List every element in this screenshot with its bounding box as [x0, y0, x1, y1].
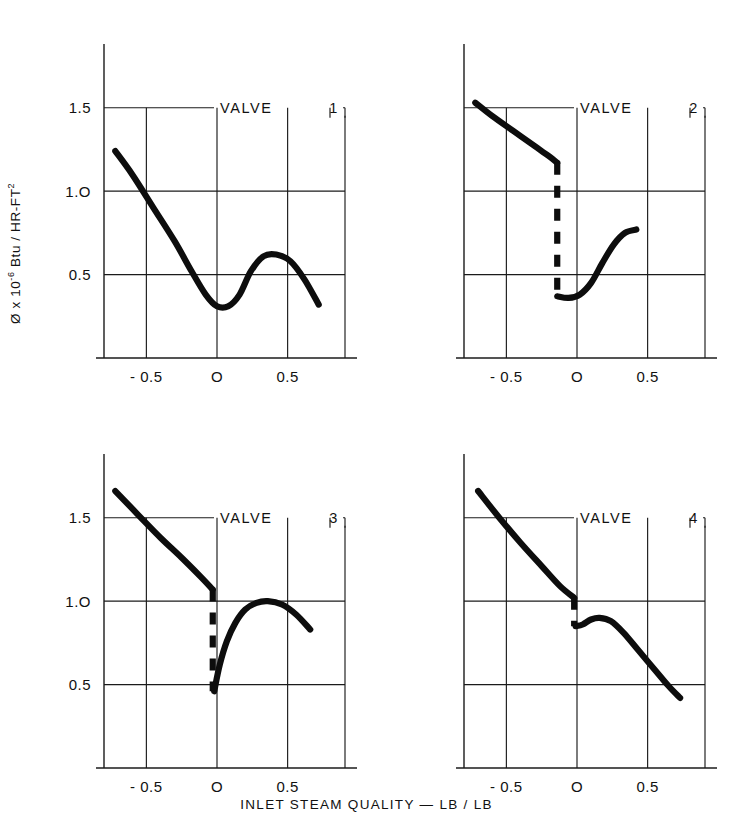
- panel-valve-1: 0.51.O1.5- 0.5O0.5VALVE1: [65, 44, 357, 385]
- series-subcooled-branch: [115, 491, 212, 589]
- panel-title-number: 2: [689, 100, 699, 116]
- series-quality-branch: [576, 618, 681, 698]
- x-tick-label: O: [211, 778, 223, 795]
- panel-title-number: 4: [689, 510, 699, 526]
- panel-valve-4: - 0.5O0.5VALVE4: [456, 454, 717, 795]
- series-subcooled-branch: [475, 103, 557, 163]
- panel-title-valve: VALVE: [580, 100, 633, 116]
- x-tick-label: 0.5: [276, 778, 298, 795]
- series-subcooled-branch: [478, 491, 574, 598]
- y-axis-label-rest-exponent: 2: [6, 183, 16, 189]
- series-quality-branch: [214, 601, 310, 691]
- y-axis-label: Ø x 10-6 Btu / HR-FT2: [6, 84, 23, 324]
- y-tick-label: 0.5: [69, 266, 91, 283]
- panel-valve-3: 0.51.O1.5- 0.5O0.5VALVE3: [65, 454, 357, 795]
- y-axis-label-rest: Btu / HR-FT: [8, 188, 23, 271]
- y-tick-label: 1.5: [69, 509, 91, 526]
- x-tick-label: O: [571, 778, 583, 795]
- y-tick-label: 0.5: [69, 676, 91, 693]
- panel-title-number: 3: [329, 510, 339, 526]
- panel-title-valve: VALVE: [220, 100, 273, 116]
- panel-title-valve: VALVE: [220, 510, 273, 526]
- y-tick-label: 1.O: [65, 183, 91, 200]
- x-tick-label: 0.5: [636, 368, 658, 385]
- x-axis-label: INLET STEAM QUALITY — LB / LB: [0, 797, 733, 812]
- y-tick-label: 1.O: [65, 593, 91, 610]
- x-tick-label: - 0.5: [130, 778, 163, 795]
- y-axis-label-exponent: -6: [6, 271, 16, 280]
- panel-valve-2: - 0.5O0.5VALVE2: [456, 44, 717, 385]
- x-tick-label: - 0.5: [490, 778, 523, 795]
- x-tick-label: O: [211, 368, 223, 385]
- panel-title-number: 1: [329, 100, 339, 116]
- panel-title-valve: VALVE: [580, 510, 633, 526]
- x-tick-label: O: [571, 368, 583, 385]
- x-tick-label: 0.5: [276, 368, 298, 385]
- figure-container: Ø x 10-6 Btu / HR-FT2 0.51.O1.5- 0.5O0.5…: [0, 0, 733, 839]
- chart-svg: 0.51.O1.5- 0.5O0.5VALVE1- 0.5O0.5VALVE20…: [0, 0, 733, 839]
- series-quality-branch: [557, 230, 636, 298]
- y-axis-label-main: Ø x 10: [8, 281, 23, 324]
- x-tick-label: 0.5: [636, 778, 658, 795]
- x-tick-label: - 0.5: [130, 368, 163, 385]
- x-tick-label: - 0.5: [490, 368, 523, 385]
- y-tick-label: 1.5: [69, 99, 91, 116]
